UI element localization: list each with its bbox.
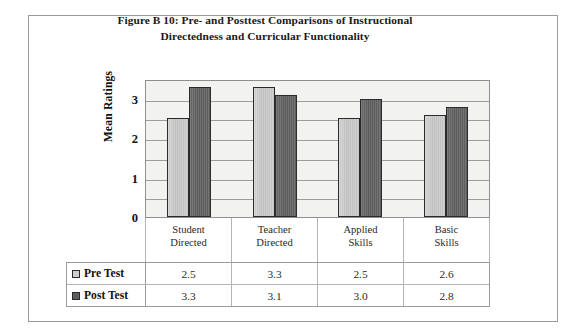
table-row: Pre Test2.53.32.52.6: [67, 263, 489, 285]
category-label: BasicSkills: [404, 218, 489, 262]
category-label: AppliedSkills: [318, 218, 404, 262]
table-value-cell: 2.5: [146, 263, 232, 284]
category-label: TeacherDirected: [232, 218, 318, 262]
category-label-line: Basic: [404, 223, 489, 236]
y-tick-label: 1: [112, 171, 138, 186]
table-value-cell: 3.3: [232, 263, 318, 284]
category-label-line: Student: [146, 223, 231, 236]
y-tick-label: 2: [112, 132, 138, 147]
legend-cell[interactable]: Pre Test: [67, 263, 146, 284]
category-label-line: Teacher: [232, 223, 317, 236]
legend-label: Post Test: [84, 289, 128, 302]
category-label-line: Skills: [404, 236, 489, 249]
bar-group: [403, 81, 489, 217]
y-axis-tick-labels: 0123: [112, 80, 138, 218]
legend-label: Pre Test: [84, 267, 124, 280]
bar-pre-test[interactable]: [253, 87, 275, 217]
table-value-cell: 2.5: [318, 263, 404, 284]
bars-layer: [146, 81, 489, 217]
table-value-cell: 2.6: [404, 263, 489, 284]
table-value-cell: 2.8: [404, 285, 489, 306]
bar-group: [318, 81, 404, 217]
bar-post-test[interactable]: [275, 95, 297, 217]
table-row: Post Test3.33.13.02.8: [67, 285, 489, 306]
y-tick-label: 3: [112, 92, 138, 107]
legend-swatch-pre-test: [72, 270, 80, 278]
y-tick-label: 0: [112, 211, 138, 226]
bar-pre-test[interactable]: [424, 115, 446, 218]
bar-group: [232, 81, 318, 217]
category-label: StudentDirected: [146, 218, 232, 262]
chart-title-line-2: Directedness and Curricular Functionalit…: [28, 29, 502, 45]
bar-pre-test[interactable]: [338, 118, 360, 217]
legend-swatch-post-test: [72, 292, 80, 300]
chart-title: Figure B 10: Pre- and Posttest Compariso…: [28, 13, 502, 44]
plot-area: [145, 80, 490, 218]
legend-cell[interactable]: Post Test: [67, 285, 146, 306]
bar-post-test[interactable]: [360, 99, 382, 217]
data-table: Pre Test2.53.32.52.6Post Test3.33.13.02.…: [66, 262, 490, 307]
bar-post-test[interactable]: [189, 87, 211, 217]
category-label-line: Skills: [318, 236, 403, 249]
table-value-cell: 3.3: [146, 285, 232, 306]
bar-group: [146, 81, 232, 217]
bar-post-test[interactable]: [446, 107, 468, 217]
category-label-line: Directed: [146, 236, 231, 249]
table-value-cell: 3.0: [318, 285, 404, 306]
category-label-line: Applied: [318, 223, 403, 236]
category-axis-labels: StudentDirectedTeacherDirectedAppliedSki…: [145, 218, 490, 262]
category-label-line: Directed: [232, 236, 317, 249]
chart-title-line-1: Figure B 10: Pre- and Posttest Compariso…: [28, 13, 502, 29]
bar-pre-test[interactable]: [167, 118, 189, 217]
table-value-cell: 3.1: [232, 285, 318, 306]
